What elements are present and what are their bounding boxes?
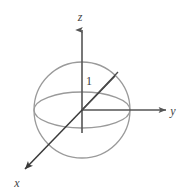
x-axis-label: x: [13, 176, 20, 190]
figure-container: z y x 1: [0, 0, 186, 193]
unit-radius-label: 1: [86, 74, 92, 88]
y-axis-label: y: [169, 104, 176, 118]
z-axis-label: z: [77, 10, 83, 24]
unit-sphere-diagram: z y x 1: [0, 0, 186, 193]
